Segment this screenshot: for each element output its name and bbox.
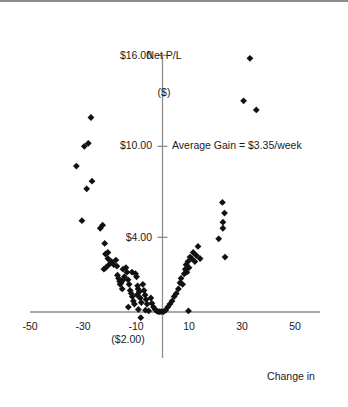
data-point <box>89 178 96 185</box>
data-point <box>220 219 227 226</box>
data-point <box>73 163 80 170</box>
x-tick-label-30: 30 <box>224 320 260 332</box>
x-tick-label-neg10: -10 <box>118 320 154 332</box>
data-point <box>83 185 90 192</box>
data-point <box>220 225 227 232</box>
x-tick-label-neg50: -50 <box>12 320 48 332</box>
data-point <box>195 243 202 250</box>
data-point <box>126 281 133 288</box>
data-point <box>139 281 146 288</box>
x-tick-label-10: 10 <box>171 320 207 332</box>
y-tick-label-4: $4.00 <box>72 231 152 243</box>
data-point <box>88 114 95 121</box>
data-point <box>253 107 260 114</box>
x-tick-label-neg30: -30 <box>65 320 101 332</box>
data-point <box>125 304 132 311</box>
x-axis-title-line1: Change in <box>238 370 344 383</box>
y-tick-label-neg2: ($2.00) <box>100 333 156 345</box>
scatter-chart: Net P/L ($) $16.00 $10.00 $4.00 ($2.00) … <box>0 0 348 407</box>
y-tick-label-10: $10.00 <box>72 139 152 151</box>
y-axis-title: Net P/L ($) <box>118 24 210 123</box>
data-point <box>222 254 229 261</box>
data-point <box>247 55 254 62</box>
x-tick-label-50: 50 <box>277 320 313 332</box>
data-point <box>185 307 192 314</box>
y-tick-label-16: $16.00 <box>72 49 152 61</box>
average-gain-annotation: Average Gain = $3.35/week <box>172 139 302 151</box>
data-point <box>219 199 226 206</box>
data-point <box>221 210 228 217</box>
data-point <box>240 97 247 104</box>
x-axis-title: Change in 4-3/4 year futures rate (bp) <box>238 345 344 407</box>
data-point <box>215 235 222 242</box>
data-point <box>79 217 86 224</box>
y-axis-title-line2: ($) <box>118 86 210 98</box>
